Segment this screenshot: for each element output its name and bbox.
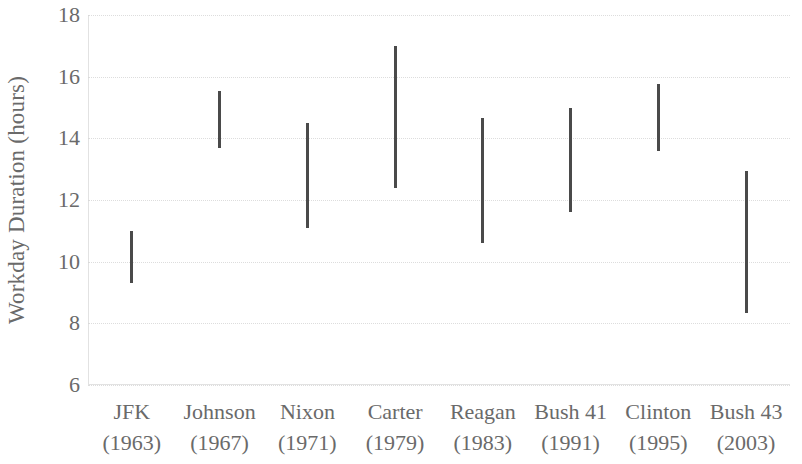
x-axis-tick-label-name: Johnson	[176, 396, 264, 427]
range-bar	[745, 171, 748, 313]
x-axis-tick-label-year: (1963)	[88, 427, 176, 458]
gridline	[88, 200, 790, 202]
x-axis-tick-label-year: (1967)	[176, 427, 264, 458]
y-axis-tick-label: 10	[34, 251, 80, 273]
x-axis-tick-label-name: Reagan	[439, 396, 527, 427]
x-axis-tick-label: Johnson(1967)	[176, 396, 264, 458]
plot-area	[88, 15, 790, 385]
x-axis-tick-label-year: (1979)	[351, 427, 439, 458]
chart-container: Workday Duration (hours) 181614121086 JF…	[0, 0, 802, 464]
gridline	[88, 77, 790, 79]
x-axis-tick-label: Clinton(1995)	[615, 396, 703, 458]
gridline	[88, 385, 790, 387]
y-axis-tick-label: 12	[34, 189, 80, 211]
gridline	[88, 138, 790, 140]
x-axis-tick-label-name: Carter	[351, 396, 439, 427]
range-bar	[657, 84, 660, 150]
x-axis-tick-label: Bush 43(2003)	[702, 396, 790, 458]
y-axis-tick-label: 8	[34, 312, 80, 334]
gridline	[88, 15, 790, 17]
y-axis-title-text: Workday Duration (hours)	[4, 76, 30, 324]
gridline	[88, 262, 790, 264]
x-axis-tick-labels: JFK(1963)Johnson(1967)Nixon(1971)Carter(…	[88, 396, 790, 464]
x-axis-tick-label: JFK(1963)	[88, 396, 176, 458]
x-axis-tick-label-name: Nixon	[264, 396, 352, 427]
x-axis-tick-label-year: (1971)	[264, 427, 352, 458]
x-axis-tick-label-year: (1983)	[439, 427, 527, 458]
x-axis-tick-label-name: Bush 43	[702, 396, 790, 427]
x-axis-tick-label-year: (1991)	[527, 427, 615, 458]
range-bar	[306, 123, 309, 228]
y-axis-tick-label: 14	[34, 127, 80, 149]
y-axis-tick-label: 6	[34, 374, 80, 396]
x-axis-tick-label: Bush 41(1991)	[527, 396, 615, 458]
x-axis-tick-label-name: Bush 41	[527, 396, 615, 427]
range-bar	[481, 118, 484, 243]
x-axis-tick-label-year: (1995)	[615, 427, 703, 458]
x-axis-tick-label: Nixon(1971)	[264, 396, 352, 458]
y-axis-title: Workday Duration (hours)	[0, 0, 34, 400]
range-bar	[130, 231, 133, 283]
x-axis-tick-label-name: Clinton	[615, 396, 703, 427]
y-axis-tick-label: 18	[34, 4, 80, 26]
x-axis-tick-label: Reagan(1983)	[439, 396, 527, 458]
y-axis-tick-label: 16	[34, 66, 80, 88]
x-axis-tick-label-name: JFK	[88, 396, 176, 427]
range-bar	[569, 108, 572, 213]
x-axis-tick-label: Carter(1979)	[351, 396, 439, 458]
y-axis-tick-labels: 181614121086	[34, 0, 80, 400]
gridline	[88, 323, 790, 325]
range-bar	[218, 91, 221, 148]
range-bar	[394, 46, 397, 188]
x-axis-tick-label-year: (2003)	[702, 427, 790, 458]
